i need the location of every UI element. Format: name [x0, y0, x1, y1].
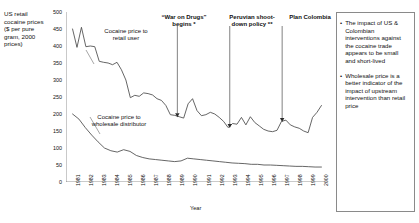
y-axis-tick: 400 — [40, 43, 62, 49]
bullet-marker-icon: • — [340, 19, 342, 65]
series-label-wholesale: Cocaine price to wholesale distributor — [88, 114, 150, 129]
y-axis-tick: 0 — [40, 179, 62, 185]
y-axis-tick: 100 — [40, 145, 62, 151]
annotation-arrow — [280, 26, 284, 122]
y-axis-tick: 150 — [40, 128, 62, 134]
annotation-plan-colombia: Plan Colombia — [288, 14, 332, 21]
chart-screenshot: US retail cocaine prices ($ per pure gra… — [0, 0, 419, 223]
x-axis-title: Year — [190, 205, 201, 211]
callout-bullet: • Wholesale price is a better indicator … — [340, 72, 410, 110]
y-axis-tick: 450 — [40, 26, 62, 32]
callout-bullet-text: The impact of US & Colombian interventio… — [345, 19, 410, 65]
y-axis-tick: 50 — [40, 162, 62, 168]
annotation-peruvian-shootdown: Peruvian shoot-down policy ** — [222, 14, 282, 28]
annotation-war-on-drugs: “War on Drugs” begins * — [155, 14, 213, 28]
y-axis-tick: 500 — [40, 9, 62, 15]
y-axis-tick: 250 — [40, 94, 62, 100]
label-leader-line — [86, 50, 94, 64]
insights-callout: • The impact of US & Colombian intervent… — [336, 12, 415, 212]
bullet-marker-icon: • — [340, 72, 342, 110]
y-axis-tick: 200 — [40, 111, 62, 117]
y-axis-tick: 300 — [40, 77, 62, 83]
callout-bullet: • The impact of US & Colombian intervent… — [340, 19, 410, 65]
annotation-arrow — [175, 26, 179, 117]
callout-bullet-text: Wholesale price is a better indicator of… — [345, 72, 410, 110]
y-axis-tick: 350 — [40, 60, 62, 66]
series-label-retail: Cocaine price to retail user — [97, 28, 155, 43]
annotation-arrow — [228, 26, 232, 128]
